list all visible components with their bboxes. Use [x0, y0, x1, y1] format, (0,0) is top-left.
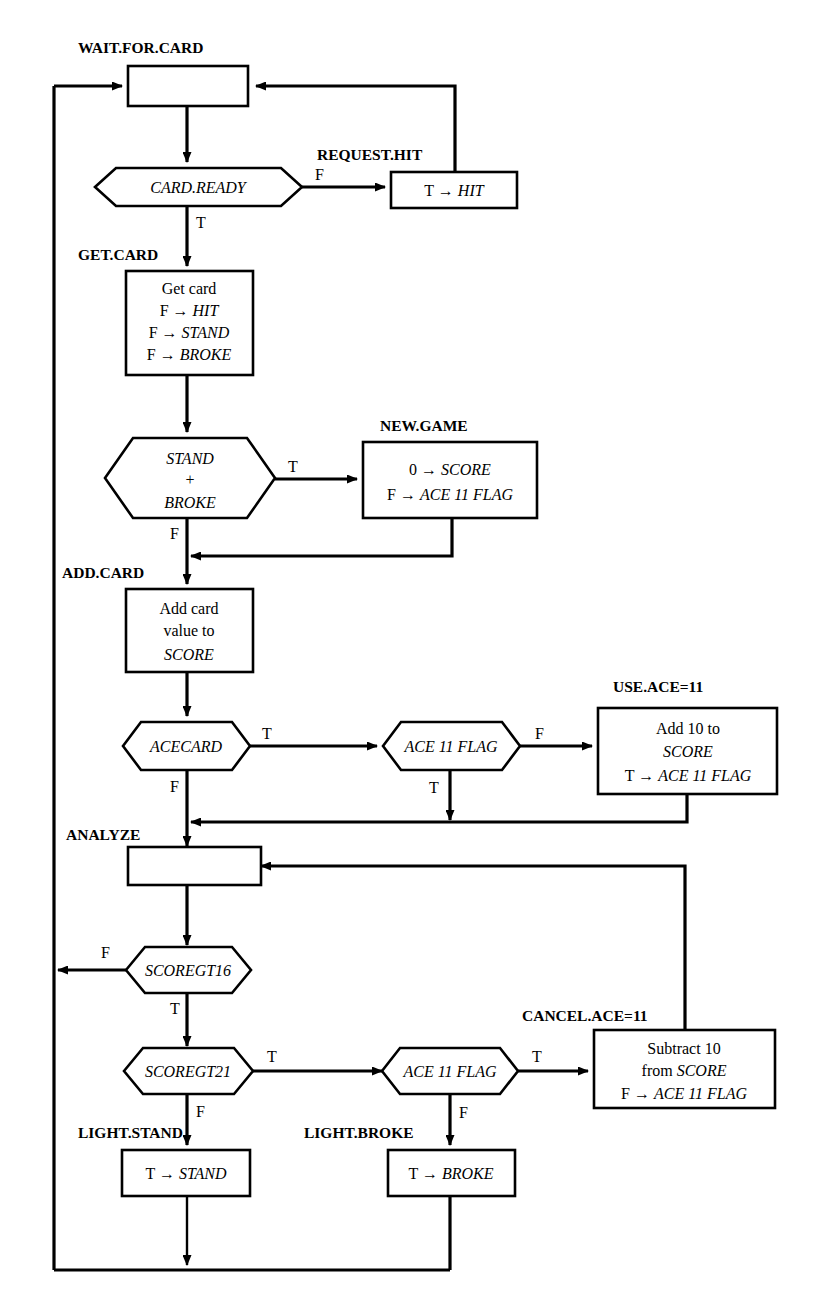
node-acecard-text: ACECARD	[149, 738, 222, 755]
edge-cancelace-to-analyze	[261, 866, 685, 1030]
edge-label-acecard-true: T	[262, 725, 272, 742]
node-get-card-line0: Get card	[162, 280, 217, 297]
node-new-game-box[interactable]	[363, 442, 537, 518]
node-add-card-line2: SCORE	[164, 646, 214, 663]
node-use-ace-line2: T → ACE 11 FLAG	[625, 767, 752, 784]
node-analyze-box[interactable]	[128, 847, 261, 885]
node-cancel-ace-line2: F → ACE 11 FLAG	[621, 1085, 747, 1102]
edge-label-standbroke-false: F	[170, 525, 179, 542]
node-get-card-line2: F → STAND	[149, 324, 230, 341]
edge-label-scoregt21-false: F	[196, 1103, 205, 1120]
node-use-ace-line1: SCORE	[663, 743, 713, 760]
node-new-game-line0: 0 → SCORE	[409, 461, 491, 478]
edge-useace-to-analyze	[191, 794, 687, 822]
node-stand-broke-line1: +	[185, 471, 194, 488]
node-new-game-line1: F → ACE 11 FLAG	[387, 486, 513, 503]
node-request-hit-text: T → HIT	[424, 182, 484, 199]
node-card-ready-text: CARD.READY	[150, 179, 248, 196]
edge-label-scoregt16-false: F	[101, 944, 110, 961]
edge-label-ace11flagtop-false: F	[535, 725, 544, 742]
label-get-card: GET.CARD	[78, 246, 158, 263]
edge-newgame-to-addcard	[191, 519, 452, 556]
edge-label-scoregt16-true: T	[170, 1000, 180, 1017]
label-new-game: NEW.GAME	[380, 417, 468, 434]
node-wait-for-card-box[interactable]	[128, 66, 248, 106]
label-use-ace: USE.ACE=11	[613, 678, 703, 695]
flowchart-canvas: WAIT.FOR.CARD CARD.READY F T REQUEST.HIT…	[0, 0, 822, 1304]
edge-label-scoregt21-true: T	[267, 1048, 277, 1065]
edge-label-cardready-true: T	[196, 214, 206, 231]
label-analyze: ANALYZE	[66, 826, 140, 843]
node-add-card-line0: Add card	[159, 600, 218, 617]
flowchart-svg: WAIT.FOR.CARD CARD.READY F T REQUEST.HIT…	[0, 0, 822, 1304]
node-stand-broke-line0: STAND	[166, 450, 214, 467]
node-scoregt16-text: SCOREGT16	[145, 962, 231, 979]
node-get-card-line1: F → HIT	[160, 302, 220, 319]
edge-label-acecard-false: F	[170, 778, 179, 795]
node-light-broke-text: T → BROKE	[408, 1165, 493, 1182]
label-wait-for-card: WAIT.FOR.CARD	[78, 39, 203, 56]
label-request-hit: REQUEST.HIT	[317, 146, 423, 163]
node-scoregt21-text: SCOREGT21	[145, 1063, 231, 1080]
node-add-card-line1: value to	[163, 622, 214, 639]
label-light-stand: LIGHT.STAND	[78, 1124, 183, 1141]
node-ace11flag-bottom-text: ACE 11 FLAG	[402, 1063, 496, 1080]
label-light-broke: LIGHT.BROKE	[304, 1124, 414, 1141]
node-use-ace-line0: Add 10 to	[656, 720, 720, 737]
edge-label-ace11flagbottom-false: F	[459, 1104, 468, 1121]
node-get-card-line3: F → BROKE	[147, 346, 232, 363]
edge-label-cardready-false: F	[315, 166, 324, 183]
node-request-hit-var: HIT	[457, 182, 485, 199]
node-cancel-ace-line0: Subtract 10	[647, 1040, 720, 1057]
node-cancel-ace-line1: from SCORE	[642, 1062, 727, 1079]
node-light-stand-text: T → STAND	[145, 1165, 227, 1182]
node-ace11flag-top-text: ACE 11 FLAG	[403, 738, 497, 755]
label-cancel-ace: CANCEL.ACE=11	[522, 1007, 648, 1024]
edge-label-ace11flagbottom-true: T	[532, 1048, 542, 1065]
edge-label-standbroke-true: T	[288, 458, 298, 475]
edge-label-ace11flagtop-true: T	[429, 779, 439, 796]
label-add-card: ADD.CARD	[62, 564, 144, 581]
node-stand-broke-line2: BROKE	[164, 494, 216, 511]
